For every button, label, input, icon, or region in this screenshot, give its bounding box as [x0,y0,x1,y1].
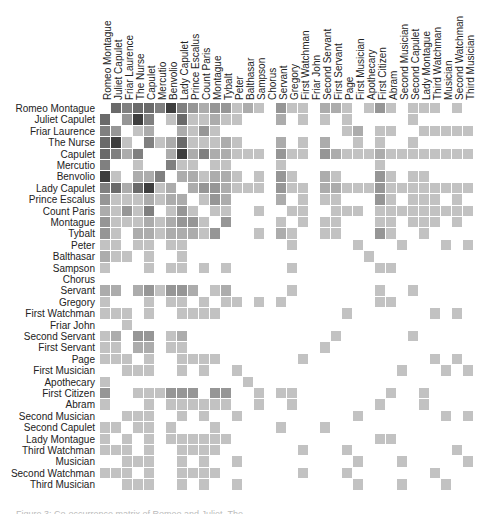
matrix-cell [100,206,110,216]
row-label: The Nurse [48,137,95,148]
matrix-cell [133,228,143,238]
matrix-cell [133,411,143,421]
matrix-cell [122,468,132,478]
matrix-cell [144,434,154,444]
matrix-cell [166,240,176,250]
row-label: Lady Capulet [36,183,95,194]
matrix-cell [188,171,198,181]
matrix-cell [287,388,297,398]
row-label: Third Musician [30,479,95,490]
matrix-cell [111,354,121,364]
matrix-cell [408,137,418,147]
matrix-cell [419,194,429,204]
column-label: Tybalt [221,0,232,100]
matrix-cell [155,388,165,398]
matrix-cell [210,206,220,216]
matrix-cell [166,206,176,216]
matrix-cell [397,183,407,193]
matrix-cell [287,263,297,273]
matrix-cell [375,434,385,444]
column-label: First Watchman [298,0,309,100]
matrix-cell [199,263,209,273]
column-label: Lady Capulet [177,0,188,100]
matrix-cell [177,479,187,489]
matrix-cell [298,217,308,227]
matrix-cell [133,422,143,432]
row-label: Lady Montague [26,434,95,445]
matrix-cell [419,228,429,238]
matrix-cell [188,354,198,364]
matrix-cell [177,263,187,273]
matrix-cell [177,354,187,364]
matrix-cell [210,126,220,136]
matrix-cell [111,308,121,318]
matrix-cell [100,308,110,318]
matrix-cell [122,320,132,330]
matrix-cell [144,479,154,489]
matrix-cell [199,411,209,421]
matrix-cell [144,228,154,238]
matrix-cell [144,297,154,307]
matrix-cell [408,149,418,159]
matrix-cell [353,411,363,421]
matrix-cell [166,194,176,204]
matrix-cell [177,468,187,478]
matrix-cell [100,377,110,387]
matrix-cell [342,468,352,478]
matrix-cell [210,445,220,455]
matrix-cell [177,308,187,318]
matrix-cell [298,468,308,478]
matrix-cell [100,251,110,261]
matrix-cell [100,388,110,398]
matrix-cell [276,217,286,227]
matrix-cell [342,206,352,216]
matrix-cell [430,126,440,136]
matrix-cell [210,468,220,478]
matrix-cell [320,171,330,181]
matrix-cell [254,183,264,193]
matrix-cell [298,445,308,455]
matrix-cell [133,103,143,113]
matrix-cell [254,399,264,409]
matrix-cell [111,194,121,204]
matrix-cell [155,217,165,227]
matrix-cell [441,411,451,421]
matrix-cell [353,149,363,159]
matrix-cell [375,183,385,193]
matrix-cell [188,445,198,455]
matrix-cell [210,228,220,238]
matrix-cell [386,194,396,204]
matrix-cell [397,206,407,216]
matrix-cell [375,103,385,113]
matrix-cell [122,308,132,318]
column-label: Servant [276,0,287,100]
matrix-cell [166,331,176,341]
matrix-cell [452,217,462,227]
matrix-cell [199,399,209,409]
matrix-cell [463,365,473,375]
column-label: Capulet [144,0,155,100]
matrix-cell [430,103,440,113]
matrix-cell [221,206,231,216]
matrix-cell [177,149,187,159]
matrix-cell [452,445,462,455]
matrix-cell [364,251,374,261]
matrix-cell [254,388,264,398]
matrix-cell [177,399,187,409]
row-label: Second Watchman [11,468,95,479]
matrix-cell [166,422,176,432]
matrix-cell [177,114,187,124]
matrix-cell [232,479,242,489]
matrix-cell [331,217,341,227]
matrix-cell [254,228,264,238]
matrix-cell [133,331,143,341]
matrix-cell [210,160,220,170]
matrix-cell [430,149,440,159]
matrix-cell [144,399,154,409]
matrix-cell [397,149,407,159]
matrix-cell [199,297,209,307]
matrix-cell [177,456,187,466]
row-label: Montague [51,217,95,228]
matrix-cell [133,126,143,136]
matrix-cell [133,240,143,250]
